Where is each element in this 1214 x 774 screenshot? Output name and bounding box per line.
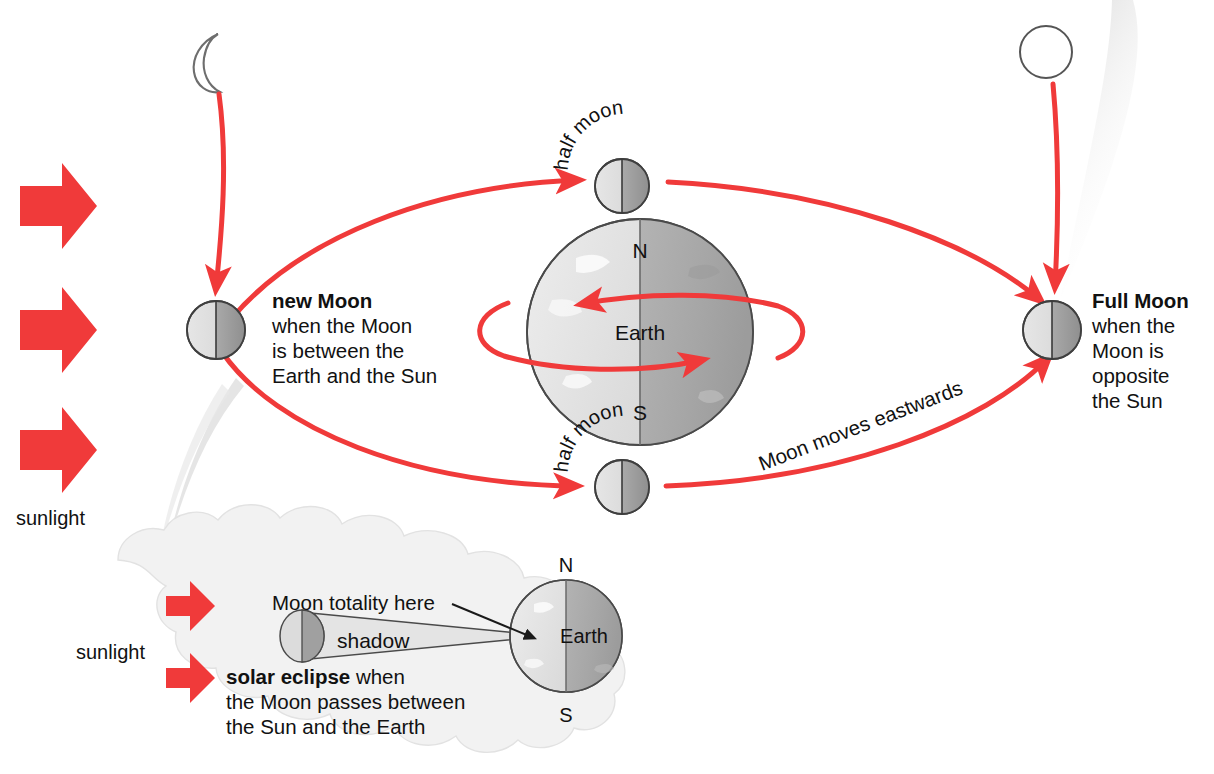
full-moon-line-2: Moon is [1092,338,1214,363]
moon-half-top [595,159,649,213]
inset-moon [280,610,324,662]
crescent-moon-icon [194,34,220,92]
full-moon-line-1: when the [1092,313,1214,338]
block-arrow-right-icon [20,287,97,373]
shadow-label: shadow [337,628,409,654]
earth-north-label: N [632,239,647,262]
solar-eclipse-label-block: solar eclipse when the Moon passes betwe… [226,664,556,739]
orbit-caption: Moon moves eastwards [755,376,965,475]
solar-eclipse-term: solar eclipse [226,665,350,688]
moon-half-bottom [595,460,649,514]
moon-new-moon [187,301,245,359]
solar-eclipse-line-2: the Moon passes between [226,689,556,714]
earth-south-label: S [633,401,647,424]
arrow-to-full-moon [1053,84,1058,286]
sunlight-arrows-main [20,163,97,493]
block-arrow-right-icon [20,163,97,249]
full-moon-title: Full Moon [1092,288,1214,313]
solar-eclipse-line-1: solar eclipse when [226,664,556,689]
new-moon-title: new Moon [272,288,487,313]
arrow-to-new-moon [216,94,224,288]
solar-eclipse-when: when [350,665,405,688]
full-moon-label-block: Full Moon when the Moon is opposite the … [1092,288,1214,413]
new-moon-line-2: is between the [272,338,487,363]
full-moon-line-4: the Sun [1092,388,1214,413]
block-arrow-right-icon [20,407,97,493]
diagram-artwork: half moon half moon Moon moves eastwards… [0,0,1214,774]
inset-earth-label: Earth [560,625,608,647]
sunlight-label-inset: sunlight [76,640,145,664]
new-moon-line-1: when the Moon [272,313,487,338]
moon-full-moon [1023,301,1081,359]
sunlight-label-main: sunlight [16,506,85,530]
full-moon-line-3: opposite [1092,363,1214,388]
solar-eclipse-line-3: the Sun and the Earth [226,714,556,739]
inset-north-label: N [559,554,573,576]
new-moon-label-block: new Moon when the Moon is between the Ea… [272,288,487,388]
diagram-canvas: half moon half moon Moon moves eastwards… [0,0,1214,774]
inset-south-label: S [559,704,572,726]
earth-center-label: Earth [615,321,665,344]
moon-totality-label: Moon totality here [272,590,435,615]
new-moon-line-3: Earth and the Sun [272,363,487,388]
full-moon-disc-icon [1020,26,1072,78]
